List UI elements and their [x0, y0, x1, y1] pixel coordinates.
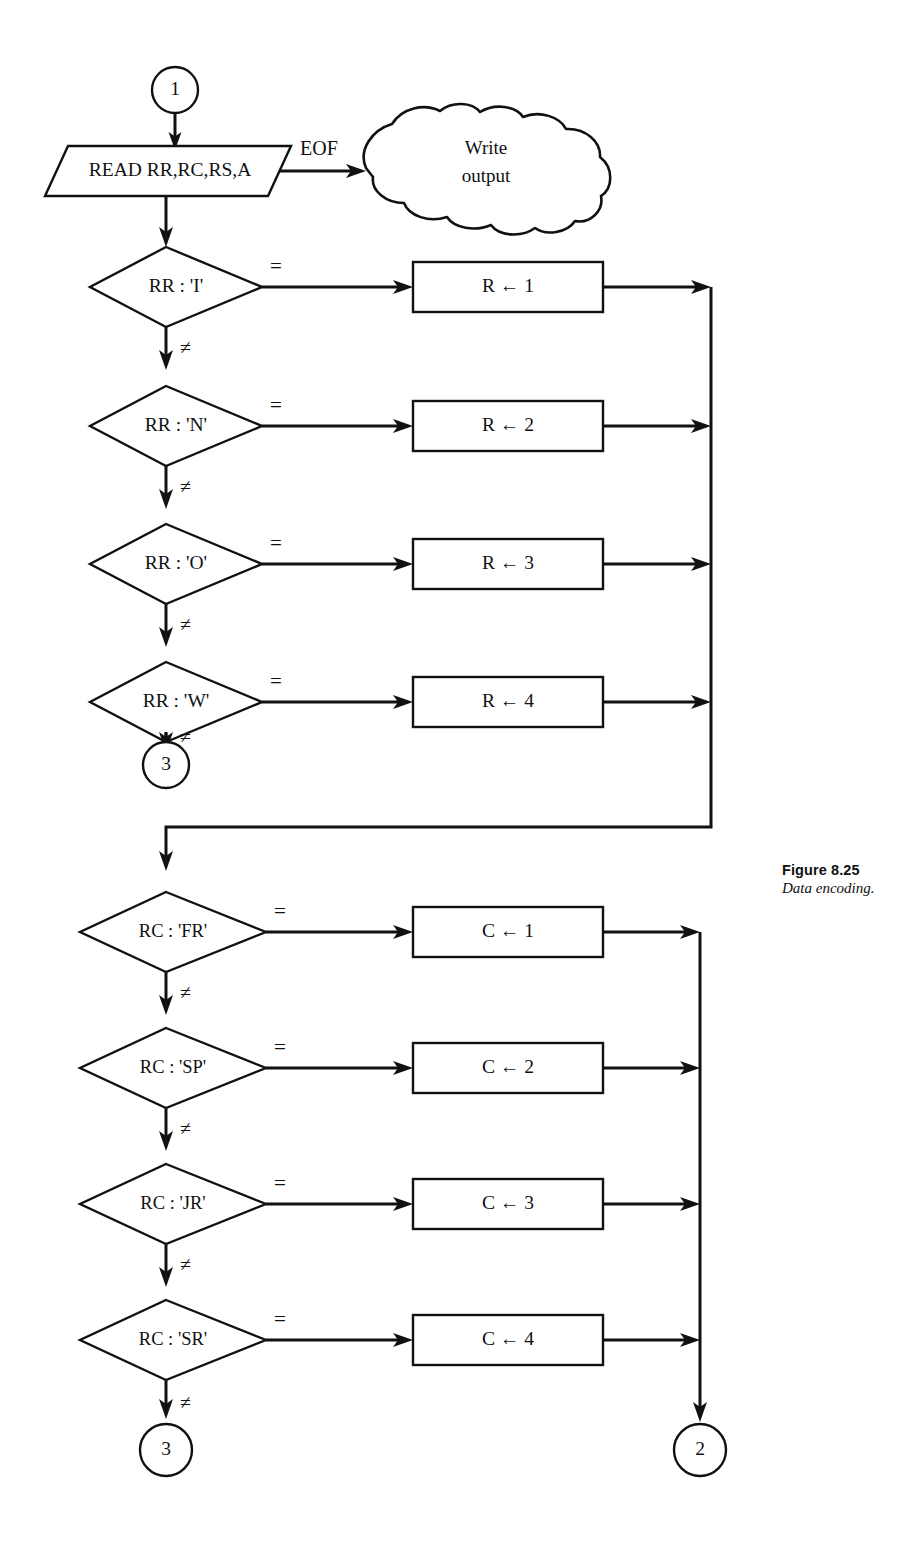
io-read-parallelogram: READ RR,RC,RS,A [45, 146, 291, 196]
edge-rc-2-equal: = [266, 1035, 413, 1075]
cloud-line-2: output [462, 165, 511, 186]
edge-rr-1-notequal-label: ≠ [180, 336, 191, 358]
process-r-1-label: R ← 1 [482, 275, 534, 296]
decision-rc-1-label: RC : 'FR' [139, 921, 207, 941]
process-r-4-label: R ← 4 [482, 690, 534, 711]
decision-rc-4: RC : 'SR' [80, 1300, 266, 1380]
decision-rc-4-label: RC : 'SR' [139, 1329, 207, 1349]
cloud-line-1: Write [465, 137, 508, 158]
edge-rc-1-equal: = [266, 899, 413, 939]
edge-rc-2-equal-label: = [274, 1035, 286, 1059]
process-r-4: R ← 4 [413, 677, 603, 727]
decision-rr-1: RR : 'I' [90, 247, 262, 327]
edge-rr-2-notequal-label: ≠ [180, 475, 191, 497]
io-read-label: READ RR,RC,RS,A [89, 159, 252, 180]
edge-c-3-to-rail [603, 1197, 700, 1211]
terminal-exit-upper-3: 3 [143, 742, 189, 788]
edge-rr-2-notequal: ≠ [159, 466, 191, 509]
decision-rc-3: RC : 'JR' [80, 1164, 266, 1244]
process-c-1: C ← 1 [413, 907, 603, 957]
edge-c-2-to-rail [603, 1061, 700, 1075]
terminal-entry-1-label: 1 [170, 78, 180, 99]
decision-rc-2: RC : 'SP' [80, 1028, 266, 1108]
edge-rr-3-notequal-label: ≠ [180, 613, 191, 635]
edge-r-4-to-rail [603, 695, 711, 709]
edge-rc-4-notequal-label: ≠ [180, 1391, 191, 1413]
edge-rr-3-equal: = [262, 531, 413, 571]
edge-rc-1-equal-label: = [274, 899, 286, 923]
process-r-1: R ← 1 [413, 262, 603, 312]
edge-rc-2-notequal-label: ≠ [180, 1117, 191, 1139]
terminal-entry-1: 1 [152, 67, 198, 113]
edge-rc-4-equal-label: = [274, 1307, 286, 1331]
rail-lower-to-terminal-2 [693, 932, 707, 1422]
process-r-3-label: R ← 3 [482, 552, 534, 573]
terminal-exit-upper-3-label: 3 [161, 753, 171, 774]
decision-rr-4: RR : 'W' [90, 662, 262, 742]
edge-rc-4-equal: = [266, 1307, 413, 1347]
process-c-3-label: C ← 3 [482, 1192, 534, 1213]
terminal-exit-lower-2: 2 [674, 1424, 726, 1476]
edge-rc-1-notequal: ≠ [159, 972, 191, 1015]
edge-rc-3-equal-label: = [274, 1171, 286, 1195]
cloud-write-output: Write output [364, 104, 611, 235]
edge-rr-2-equal-label: = [270, 393, 282, 417]
edge-rr-4-equal-label: = [270, 669, 282, 693]
edge-eof-label: EOF [300, 137, 338, 159]
process-r-2-label: R ← 2 [482, 414, 534, 435]
edge-rc-2-notequal: ≠ [159, 1108, 191, 1151]
decision-rr-3-label: RR : 'O' [145, 552, 207, 573]
terminal-exit-lower-3-label: 3 [161, 1438, 171, 1459]
edge-rr-4-equal: = [262, 669, 413, 709]
figure-caption: Figure 8.25 Data encoding. [782, 861, 902, 899]
terminal-exit-lower-2-label: 2 [695, 1438, 705, 1459]
process-c-3: C ← 3 [413, 1179, 603, 1229]
flowchart-figure: 1 READ RR,RC,RS,A EOF Write output [0, 0, 906, 1541]
edge-rr-1-equal: = [262, 254, 413, 294]
process-c-2-label: C ← 2 [482, 1056, 534, 1077]
edge-rc-1-notequal-label: ≠ [180, 981, 191, 1003]
edge-c-4-to-rail [603, 1333, 700, 1347]
terminal-exit-lower-3: 3 [140, 1424, 192, 1476]
edge-rr-2-equal: = [262, 393, 413, 433]
process-c-2: C ← 2 [413, 1043, 603, 1093]
edge-rc-3-notequal: ≠ [159, 1244, 191, 1287]
decision-rr-2-label: RR : 'N' [145, 414, 207, 435]
process-r-3: R ← 3 [413, 539, 603, 589]
edge-rr-3-notequal: ≠ [159, 604, 191, 647]
arrow-entry-to-read [169, 113, 182, 150]
edge-rr-4-notequal-label: ≠ [180, 725, 191, 747]
edge-r-3-to-rail [603, 557, 711, 571]
decision-rr-2: RR : 'N' [90, 386, 262, 466]
decision-rc-3-label: RC : 'JR' [140, 1193, 205, 1213]
process-c-4-label: C ← 4 [482, 1328, 534, 1349]
process-r-2: R ← 2 [413, 401, 603, 451]
decision-rr-4-label: RR : 'W' [143, 690, 210, 711]
process-c-1-label: C ← 1 [482, 920, 534, 941]
edge-r-1-to-rail [603, 280, 711, 294]
edge-rc-3-equal: = [266, 1171, 413, 1211]
edge-eof: EOF [280, 137, 366, 178]
figure-caption-title: Figure 8.25 [782, 861, 902, 879]
edge-rc-3-notequal-label: ≠ [180, 1253, 191, 1275]
decision-rr-1-label: RR : 'I' [149, 275, 204, 296]
decision-rc-1: RC : 'FR' [80, 892, 266, 972]
edge-r-2-to-rail [603, 419, 711, 433]
edge-rr-1-equal-label: = [270, 254, 282, 278]
process-c-4: C ← 4 [413, 1315, 603, 1365]
decision-rc-2-label: RC : 'SP' [140, 1057, 206, 1077]
decision-rr-3: RR : 'O' [90, 524, 262, 604]
figure-caption-subtitle: Data encoding. [782, 879, 902, 899]
edge-rr-1-notequal: ≠ [159, 327, 191, 370]
edge-rc-4-notequal: ≠ [159, 1380, 191, 1419]
edge-c-1-to-rail [603, 925, 700, 939]
arrow-read-to-decision-1 [159, 196, 173, 247]
flowchart-canvas: 1 READ RR,RC,RS,A EOF Write output [0, 0, 906, 1541]
edge-rr-3-equal-label: = [270, 531, 282, 555]
